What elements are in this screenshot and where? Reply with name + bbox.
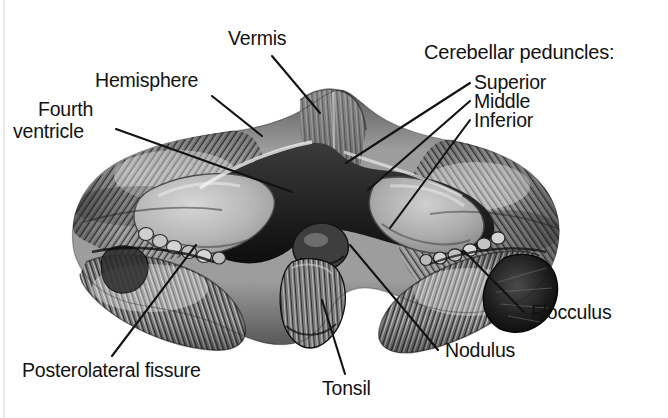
anatomical-figure: Vermis Hemisphere Fourth ventricle Cereb… <box>0 0 668 418</box>
label-fourth-ventricle-line2: ventricle <box>13 122 84 141</box>
label-flocculus: Flocculus <box>531 303 612 323</box>
label-peduncle-inferior: Inferior <box>474 111 533 130</box>
label-posterolateral-fissure: Posterolateral fissure <box>22 361 201 381</box>
label-cerebellar-peduncles-heading: Cerebellar peduncles: <box>424 43 614 63</box>
flocculus-left <box>101 246 148 293</box>
label-tonsil: Tonsil <box>322 379 371 399</box>
scan-edge-artifact <box>3 0 5 418</box>
label-vermis: Vermis <box>228 29 286 49</box>
label-fourth-ventricle-line1: Fourth <box>38 100 93 119</box>
label-hemisphere: Hemisphere <box>95 71 198 91</box>
label-nodulus: Nodulus <box>445 341 515 361</box>
